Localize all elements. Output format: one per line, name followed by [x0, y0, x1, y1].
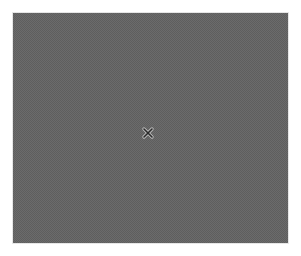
- close-icon: [142, 127, 154, 139]
- close-button[interactable]: [142, 127, 154, 139]
